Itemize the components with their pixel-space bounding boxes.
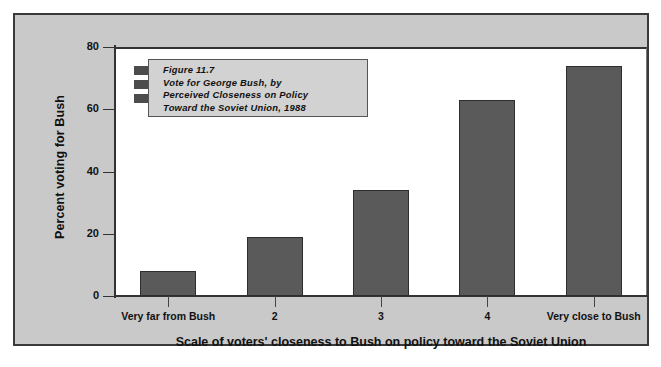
x-tick-3 <box>381 296 382 307</box>
figure-title-line-2: Vote for George Bush, by <box>163 77 363 90</box>
x-axis-title: Scale of voters' closeness to Bush on po… <box>115 335 647 349</box>
y-tick-40 <box>103 172 115 173</box>
bar-4 <box>459 100 515 296</box>
chart-panel: 020406080 Percent voting for Bush Very f… <box>13 13 649 346</box>
figure-container: 020406080 Percent voting for Bush Very f… <box>0 0 661 367</box>
y-tick-label-0: 0 <box>59 290 99 301</box>
bar-1 <box>140 271 196 296</box>
y-tick-60 <box>103 109 115 110</box>
bar-2 <box>247 237 303 296</box>
bar-3 <box>353 190 409 296</box>
figure-title-box: Figure 11.7 Vote for George Bush, by Per… <box>148 59 368 117</box>
y-axis-title: Percent voting for Bush <box>53 57 67 277</box>
x-tick-1 <box>168 296 169 307</box>
y-tick-label-80: 80 <box>59 41 99 52</box>
figure-title-line-3: Perceived Closeness on Policy <box>163 89 363 102</box>
x-tick-2 <box>275 296 276 307</box>
figure-title-line-1: Figure 11.7 <box>163 64 363 77</box>
x-tick-4 <box>487 296 488 307</box>
y-tick-80 <box>103 47 115 48</box>
x-tick-5 <box>594 296 595 307</box>
y-tick-20 <box>103 234 115 235</box>
y-tick-0 <box>103 296 115 297</box>
bar-5 <box>566 66 622 296</box>
figure-title-line-4: Toward the Soviet Union, 1988 <box>163 102 363 115</box>
x-tick-label-5: Very close to Bush <box>514 310 661 322</box>
